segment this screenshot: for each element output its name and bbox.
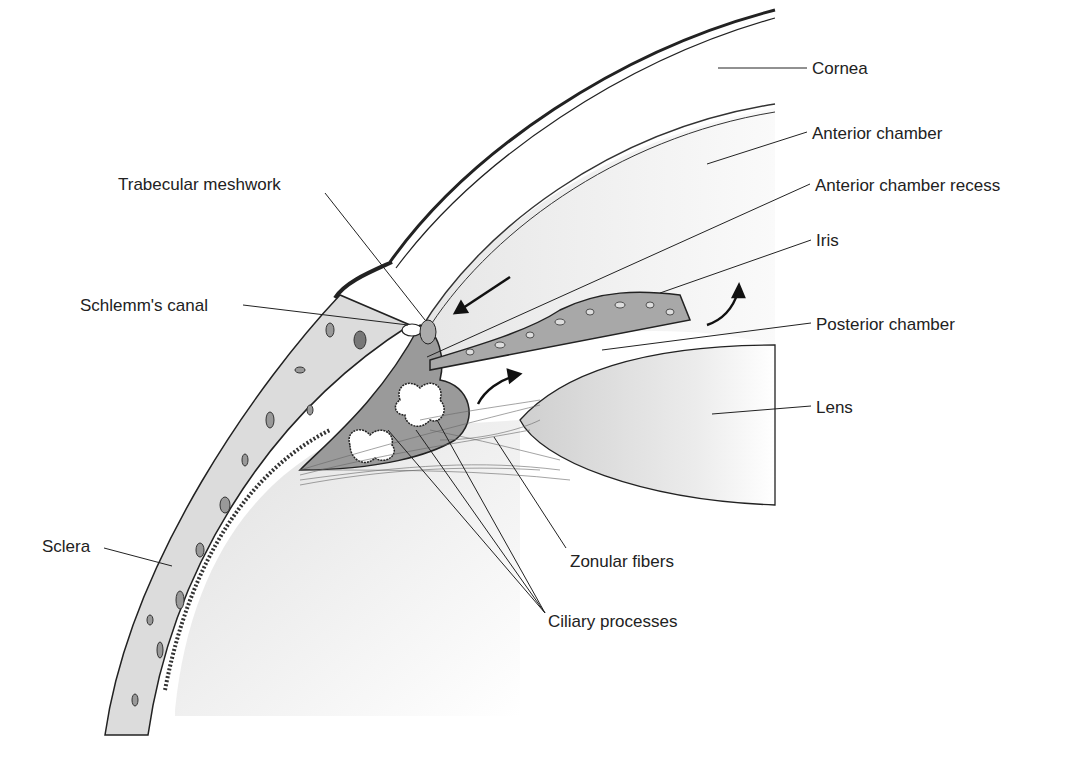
label-sclera: Sclera <box>42 538 90 555</box>
label-trabecular-meshwork: Trabecular meshwork <box>118 176 281 193</box>
label-cornea: Cornea <box>812 60 868 77</box>
eye-anterior-segment-diagram <box>0 0 1081 766</box>
label-zonular-fibers: Zonular fibers <box>570 553 674 570</box>
label-schlemms-canal: Schlemm's canal <box>80 297 208 314</box>
trabecular-meshwork-shape <box>420 320 436 344</box>
label-ciliary-processes: Ciliary processes <box>548 613 677 630</box>
label-anterior-chamber-recess: Anterior chamber recess <box>815 177 1000 194</box>
label-anterior-chamber: Anterior chamber <box>812 125 942 142</box>
label-iris: Iris <box>816 232 839 249</box>
lens <box>520 345 775 505</box>
label-posterior-chamber: Posterior chamber <box>816 316 955 333</box>
schlemms-canal-shape <box>402 324 422 336</box>
label-lens: Lens <box>816 399 853 416</box>
